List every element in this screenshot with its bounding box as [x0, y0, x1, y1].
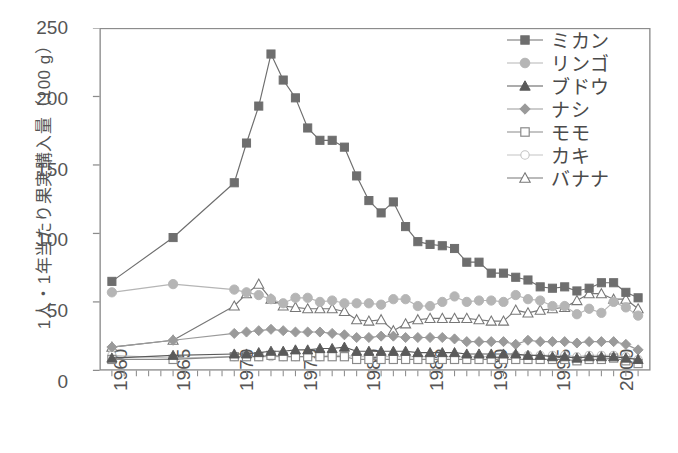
data-point — [352, 332, 362, 342]
y-axis-tick-labels: 050100150200250 — [16, 0, 68, 453]
legend-item-リンゴ[interactable]: リンゴ — [505, 51, 673, 74]
data-point — [572, 338, 582, 348]
data-point — [365, 355, 373, 363]
data-point — [413, 301, 422, 310]
data-point — [450, 292, 459, 301]
data-point — [389, 355, 397, 363]
chart-figure: 1人・1年当たり果実購入量（100 g） 050100150200250 196… — [0, 0, 678, 453]
data-point — [339, 330, 349, 340]
data-point — [437, 332, 447, 342]
data-point — [328, 136, 336, 144]
data-point — [168, 279, 177, 288]
data-point — [266, 324, 276, 334]
data-point — [622, 288, 630, 296]
data-point — [633, 345, 643, 355]
y-tick-label: 250 — [22, 18, 68, 37]
data-point — [474, 296, 483, 305]
data-point — [315, 297, 324, 306]
data-point — [328, 353, 336, 361]
data-point — [609, 337, 619, 347]
data-point — [536, 283, 544, 291]
data-point — [254, 290, 263, 299]
data-point — [584, 337, 594, 347]
data-point — [279, 76, 287, 84]
data-point — [573, 287, 581, 295]
data-point — [535, 337, 545, 347]
data-point — [512, 273, 520, 281]
data-point — [402, 355, 410, 363]
data-point — [498, 337, 508, 347]
data-point — [327, 328, 337, 338]
data-point — [475, 258, 483, 266]
data-point — [353, 172, 361, 180]
data-point — [107, 288, 116, 297]
data-point — [241, 327, 251, 337]
data-point — [377, 355, 385, 363]
data-point — [414, 238, 422, 246]
data-point — [376, 300, 385, 309]
data-point — [621, 339, 631, 349]
data-point — [255, 102, 263, 110]
data-point — [389, 198, 397, 206]
data-point — [547, 337, 557, 347]
legend-label: バナナ — [551, 164, 610, 191]
y-tick-label: 150 — [22, 160, 68, 179]
data-point — [523, 335, 533, 345]
data-point — [230, 179, 238, 187]
data-point — [463, 258, 471, 266]
data-point — [316, 353, 324, 361]
data-point — [340, 353, 348, 361]
y-tick-label: 50 — [22, 301, 68, 320]
data-point — [169, 233, 177, 241]
data-point — [450, 334, 460, 344]
data-point — [487, 296, 496, 305]
legend-marker-icon — [505, 53, 545, 73]
data-point — [609, 297, 618, 306]
legend-item-バナナ[interactable]: バナナ — [505, 166, 673, 189]
data-point — [316, 136, 324, 144]
data-point — [376, 331, 386, 341]
data-point — [353, 355, 361, 363]
legend-marker-icon — [505, 99, 545, 119]
data-point — [585, 284, 593, 292]
data-point — [511, 339, 521, 349]
data-point — [560, 301, 569, 310]
legend-item-カキ[interactable]: カキ — [505, 143, 673, 166]
data-point — [572, 310, 581, 319]
data-point — [340, 299, 349, 308]
data-point — [230, 285, 239, 294]
data-point — [633, 311, 642, 320]
data-point — [365, 197, 373, 205]
data-point — [462, 297, 471, 306]
data-point — [254, 326, 264, 336]
data-point — [352, 315, 362, 324]
legend-marker-icon — [505, 168, 545, 188]
data-point — [425, 332, 435, 342]
legend-item-モモ[interactable]: モモ — [505, 120, 673, 143]
data-point — [621, 303, 630, 312]
data-point — [487, 269, 495, 277]
legend-item-ブドウ[interactable]: ブドウ — [505, 74, 673, 97]
data-point — [548, 301, 557, 310]
legend-item-ミカン[interactable]: ミカン — [505, 28, 673, 51]
data-point — [450, 244, 458, 252]
data-point — [291, 94, 299, 102]
data-point — [401, 295, 410, 304]
data-point — [524, 276, 532, 284]
data-point — [499, 269, 507, 277]
data-point — [376, 315, 386, 324]
legend-marker-icon — [505, 76, 545, 96]
legend-item-ナシ[interactable]: ナシ — [505, 97, 673, 120]
data-point — [291, 293, 300, 302]
data-point — [560, 337, 570, 347]
data-point — [401, 332, 411, 342]
data-point — [279, 299, 288, 308]
y-tick-label: 200 — [22, 89, 68, 108]
data-point — [304, 124, 312, 132]
series-ナシ — [107, 324, 643, 355]
data-point — [499, 297, 508, 306]
data-point — [597, 279, 605, 287]
data-point — [315, 327, 325, 337]
data-point — [425, 301, 434, 310]
data-point — [438, 297, 447, 306]
